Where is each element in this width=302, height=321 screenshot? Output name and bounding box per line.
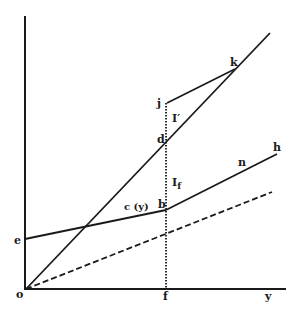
- label-c-y: c (y): [124, 201, 149, 212]
- consumption-line-eb: [25, 210, 166, 239]
- segment-jk: [167, 69, 235, 103]
- diagram: o e j k d I′ If c (y) b n h f y: [0, 0, 302, 321]
- label-e: e: [14, 234, 21, 247]
- label-k: k: [230, 56, 238, 69]
- label-I-f: If: [172, 176, 182, 191]
- label-origin: o: [16, 288, 23, 301]
- label-h: h: [273, 141, 281, 154]
- label-f: f: [163, 290, 169, 303]
- steep-line-od-k: [26, 33, 270, 289]
- line-bh: [166, 154, 277, 210]
- label-I-f-sub: f: [177, 181, 182, 191]
- label-n: n: [238, 156, 246, 169]
- label-j: j: [156, 97, 161, 110]
- label-b: b: [158, 198, 166, 211]
- label-I-prime: I′: [172, 112, 180, 125]
- label-y: y: [264, 290, 272, 303]
- label-d: d: [157, 133, 165, 146]
- dashed-line-origin: [26, 192, 272, 289]
